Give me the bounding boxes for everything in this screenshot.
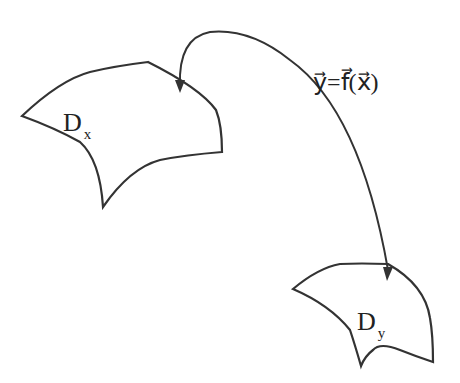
arrowhead-x-icon	[175, 80, 185, 93]
domain-x-label: Dx	[63, 108, 91, 138]
diagram-canvas	[0, 0, 460, 383]
domain-y-subscript: y	[378, 325, 386, 341]
domain-x-letter: D	[63, 108, 82, 137]
domain-y-letter: D	[357, 307, 376, 336]
arrowhead-y-icon	[383, 267, 393, 281]
domain-y-label: Dy	[357, 307, 385, 337]
domain-x-shape	[22, 62, 222, 207]
mapping-equation: y⃗=f⃗(x⃗)	[313, 68, 379, 96]
domain-x-subscript: x	[84, 126, 92, 142]
